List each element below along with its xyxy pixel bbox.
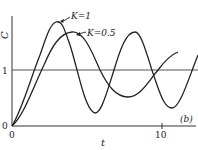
x-axis-label: t	[101, 137, 106, 148]
legend-k1-label: K=1	[70, 11, 91, 21]
panel-label: (b)	[180, 114, 193, 124]
y-tick-label-1: 1	[2, 66, 8, 76]
x-tick-label-10: 10	[155, 130, 167, 140]
series-k05-line	[12, 32, 178, 126]
chart-canvas: C 1 0 0 10 t (b) K=1 K=0.5	[0, 0, 198, 150]
legend-k05-label: K=0.5	[86, 28, 116, 38]
x-tick-label-0: 0	[9, 130, 15, 140]
y-axis-label: C	[0, 31, 10, 39]
y-tick-label-0: 0	[2, 121, 8, 131]
